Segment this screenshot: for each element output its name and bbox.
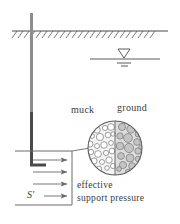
shaft-lower-elbow xyxy=(32,112,47,165)
water-table-group xyxy=(90,49,160,66)
tunnel-face-support-diagram: muck ground effective support pressure S… xyxy=(0,0,180,224)
ground-surface-hatching xyxy=(12,31,155,38)
inset-leader-line xyxy=(72,148,90,151)
label-effective: effective xyxy=(77,181,113,191)
ground-grains xyxy=(116,118,143,174)
grain-structure-inset xyxy=(85,117,147,180)
ground-surface-group xyxy=(12,31,168,38)
support-pressure-box xyxy=(15,151,72,205)
label-muck: muck xyxy=(71,105,94,115)
water-table-triangle-icon xyxy=(118,49,130,58)
label-stress-symbol: S' xyxy=(27,190,34,200)
label-ground: ground xyxy=(117,103,147,113)
label-support-pressure: support pressure xyxy=(77,194,144,204)
